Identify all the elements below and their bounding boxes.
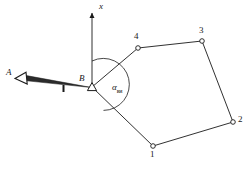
point-4-marker — [136, 46, 141, 51]
leg-1-b — [92, 87, 153, 146]
backsight-tick — [63, 85, 65, 92]
point-1-marker — [151, 144, 156, 149]
traverse-points — [136, 39, 236, 149]
vertex-4-label: 4 — [134, 32, 139, 41]
figure-canvas — [0, 0, 251, 174]
point-2-marker — [231, 120, 236, 125]
angle-arc — [92, 58, 129, 110]
angle-label: αви — [112, 83, 122, 94]
angle-subscript: ви — [117, 88, 123, 94]
arrowhead-to-a-icon — [15, 72, 27, 84]
leg-2-1 — [153, 122, 233, 146]
vertex-1-label: 1 — [150, 150, 155, 159]
station-b-label: B — [79, 74, 85, 83]
traverse-figure: x A B αви 1 2 3 4 — [0, 0, 251, 174]
point-3-marker — [200, 39, 205, 44]
leg-3-2 — [202, 41, 233, 122]
leg-4-3 — [138, 41, 202, 48]
tick-mark-icon — [63, 85, 65, 92]
angle-arc-path — [92, 58, 129, 110]
vertex-2-label: 2 — [238, 115, 243, 124]
station-a-label: A — [6, 68, 12, 77]
axis-x-label: x — [99, 2, 103, 11]
vertex-3-label: 3 — [199, 26, 204, 35]
